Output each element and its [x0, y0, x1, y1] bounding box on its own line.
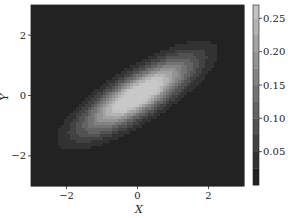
y-tick-label: 2	[20, 30, 26, 41]
colorbar-segment	[253, 35, 259, 52]
colorbar-segment	[253, 152, 259, 169]
y-axis-label: Y	[0, 92, 11, 101]
y-tick-label: 0	[20, 90, 26, 101]
y-tick-label: −2	[11, 150, 26, 161]
colorbar-segment	[253, 85, 259, 102]
colorbar-tick-label: 0.15	[263, 80, 285, 91]
colorbar-segment	[253, 5, 259, 19]
colorbar-tick-label: 0.20	[263, 46, 285, 57]
colorbar	[253, 5, 259, 185]
colorbar-ticks: 0.050.100.150.200.25	[259, 13, 285, 157]
colorbar-segment	[253, 135, 259, 152]
colorbar-segment	[253, 168, 259, 185]
colorbar-segment	[253, 68, 259, 85]
colorbar-segment	[253, 102, 259, 119]
colorbar-tick-label: 0.25	[263, 13, 285, 24]
x-axis-ticks: −202	[59, 186, 212, 201]
x-tick-label: −2	[59, 190, 74, 201]
x-tick-label: 2	[205, 190, 211, 201]
colorbar-tick-label: 0.10	[263, 113, 285, 124]
contour-figure: −202 −202 X Y 0.050.100.150.200.25	[0, 0, 288, 218]
x-axis-label: X	[134, 203, 144, 216]
y-axis-ticks: −202	[11, 30, 31, 162]
x-tick-label: 0	[134, 190, 140, 201]
colorbar-tick-label: 0.05	[263, 146, 285, 157]
colorbar-segment	[253, 118, 259, 135]
plot-area	[31, 5, 244, 186]
colorbar-segment	[253, 52, 259, 69]
colorbar-segment	[253, 18, 259, 35]
